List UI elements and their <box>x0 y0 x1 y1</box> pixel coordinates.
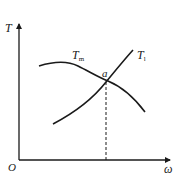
motor-torque-curve <box>39 62 145 112</box>
load-torque-curve <box>53 50 133 124</box>
y-axis-label: T <box>5 21 13 35</box>
motor-torque-label: Tm <box>72 48 85 63</box>
load-torque-label: Tl <box>137 48 146 63</box>
origin-label: O <box>8 161 16 173</box>
diagram-svg: T O ω Tm Tl a <box>0 0 181 188</box>
torque-speed-diagram: T O ω Tm Tl a <box>0 0 181 188</box>
intersection-label: a <box>102 67 108 79</box>
x-axis-label: ω <box>164 162 172 176</box>
